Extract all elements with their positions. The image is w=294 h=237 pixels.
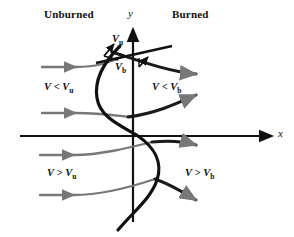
region-ll-relation: > bbox=[57, 167, 63, 178]
region-ul-ref-sub: u bbox=[69, 86, 73, 95]
vector-label-vu: Vu bbox=[112, 33, 123, 47]
region-ur-relation: < bbox=[162, 81, 168, 92]
axis-label-x: x bbox=[278, 127, 283, 139]
vu-subscript: u bbox=[119, 38, 123, 47]
vb-symbol: V bbox=[115, 61, 122, 72]
figure-container: Unburned Burned y x Vu Vb V < Vu V < Vb … bbox=[0, 0, 294, 237]
streamline-lower-2-tail bbox=[74, 179, 155, 195]
flame-front-group bbox=[96, 46, 158, 230]
region-lr-ref-sub: b bbox=[210, 172, 214, 181]
flame-front-curve bbox=[96, 46, 158, 230]
region-label-lower-left: V > Vu bbox=[47, 167, 76, 181]
label-unburned: Unburned bbox=[44, 8, 94, 20]
outflow-upper-2 bbox=[128, 95, 196, 117]
vector-label-vb: Vb bbox=[115, 61, 126, 75]
streamline-lower-1-tail bbox=[74, 142, 152, 155]
region-lr-relation: > bbox=[195, 167, 201, 178]
region-ul-symbol: V bbox=[44, 81, 51, 92]
outflow-lower-1 bbox=[152, 141, 196, 145]
region-ul-relation: < bbox=[54, 81, 60, 92]
axis-label-y: y bbox=[128, 7, 133, 19]
region-lr-symbol: V bbox=[185, 167, 192, 178]
region-ur-ref-sub: b bbox=[177, 86, 181, 95]
figure-canvas bbox=[0, 0, 294, 237]
region-ll-symbol: V bbox=[47, 167, 54, 178]
region-ll-ref-sub: u bbox=[72, 172, 76, 181]
vu-symbol: V bbox=[112, 33, 119, 44]
vb-subscript: b bbox=[122, 66, 126, 75]
region-ur-symbol: V bbox=[152, 81, 159, 92]
region-label-upper-right: V < Vb bbox=[152, 81, 181, 95]
region-label-lower-right: V > Vb bbox=[185, 167, 214, 181]
outflow-lower-2 bbox=[155, 179, 196, 200]
label-burned: Burned bbox=[172, 8, 209, 20]
region-label-upper-left: V < Vu bbox=[44, 81, 73, 95]
